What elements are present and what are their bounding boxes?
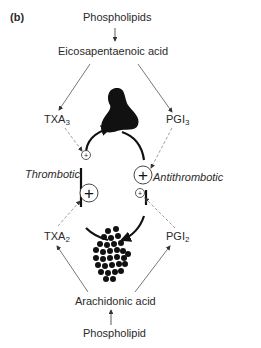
arrow-antithrombotic-down bbox=[122, 216, 144, 240]
phospholipid-bottom-label: Phospholipid bbox=[83, 327, 146, 339]
panel-label: (b) bbox=[10, 11, 24, 23]
txa3-label: TXA3 bbox=[44, 113, 70, 127]
svg-text:+: + bbox=[138, 166, 148, 185]
thrombotic-label: Thrombotic bbox=[25, 168, 80, 180]
activated-platelet-shape bbox=[101, 88, 138, 132]
dashed-txa2-to-cycle bbox=[58, 201, 80, 226]
txa2-label: TXA2 bbox=[44, 230, 70, 244]
eicosapentaenoic-acid-label: Eicosapentaenoic acid bbox=[58, 45, 168, 57]
arrow-epa-to-pgi3 bbox=[138, 64, 172, 112]
platelet-aggregate-dots bbox=[93, 226, 131, 282]
dashed-pgi3-to-cycle bbox=[151, 128, 172, 168]
dashed-txa3-to-cycle bbox=[65, 128, 82, 151]
svg-text:+: + bbox=[84, 152, 88, 159]
pgi3-label: PGI3 bbox=[166, 113, 189, 127]
antithrombotic-label: Antithrombotic bbox=[153, 171, 223, 183]
phospholipids-top-label: Phospholipids bbox=[83, 11, 152, 23]
pgi2-label: PGI2 bbox=[166, 230, 189, 244]
arrow-aa-to-pgi2 bbox=[135, 246, 170, 292]
arrow-aa-to-txa2 bbox=[57, 246, 88, 292]
arrow-epa-to-txa3 bbox=[59, 64, 90, 110]
arachidonic-acid-label: Arachidonic acid bbox=[75, 295, 156, 307]
svg-text:+: + bbox=[84, 184, 94, 203]
svg-text:+: + bbox=[138, 190, 142, 197]
dashed-pgi2-to-cycle bbox=[145, 198, 175, 228]
